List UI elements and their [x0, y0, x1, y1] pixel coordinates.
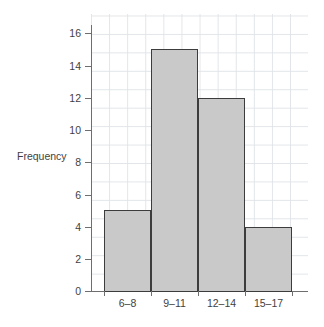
y-tick-label-4: 4	[60, 222, 81, 233]
x-tick-mark-1	[151, 291, 152, 296]
y-tick-mark-14	[85, 66, 91, 67]
histogram-bar	[104, 210, 151, 292]
y-tick-label-2: 2	[60, 254, 81, 265]
y-tick-label-14: 14	[60, 61, 81, 72]
y-tick-mark-4	[85, 227, 91, 228]
y-tick-label-10: 10	[60, 125, 81, 136]
y-tick-label-12: 12	[60, 93, 81, 104]
histogram-chart: Frequency 0 2 4 6 8 10 12 14 16 6–	[0, 0, 324, 327]
y-tick-label-8: 8	[60, 157, 81, 168]
histogram-bar	[151, 49, 198, 292]
y-tick-mark-8	[85, 162, 91, 163]
y-tick-label-14-wrap: 14	[60, 61, 81, 72]
x-axis-category-label: 12–14	[198, 297, 245, 309]
y-tick-label-16: 16	[60, 28, 81, 39]
x-axis-category-label: 6–8	[104, 297, 151, 309]
y-tick-label-10-wrap: 10	[60, 125, 81, 136]
y-axis-line	[91, 25, 92, 292]
x-tick-mark-2	[198, 291, 199, 296]
x-tick-mark-3	[245, 291, 246, 296]
y-tick-mark-12	[85, 98, 91, 99]
y-tick-mark-6	[85, 195, 91, 196]
x-axis-category-label: 15–17	[245, 297, 292, 309]
y-tick-mark-16	[85, 33, 91, 34]
y-tick-label-12-wrap: 12	[60, 93, 81, 104]
x-axis-category-label: 9–11	[151, 297, 198, 309]
y-tick-mark-2	[85, 259, 91, 260]
y-tick-label-6-wrap: 6	[60, 190, 81, 201]
x-tick-mark-0	[104, 291, 105, 296]
y-tick-label-0: 0	[60, 286, 81, 297]
x-tick-mark-4	[292, 291, 293, 296]
y-tick-label-4-wrap: 4	[60, 222, 81, 233]
y-tick-label-16-wrap: 16	[60, 28, 81, 39]
y-tick-label-2-wrap: 2	[60, 254, 81, 265]
y-tick-label-8-wrap: 8	[60, 157, 81, 168]
y-tick-label-6: 6	[60, 190, 81, 201]
histogram-bar	[245, 227, 292, 293]
y-tick-mark-10	[85, 130, 91, 131]
histogram-bar	[198, 98, 245, 293]
y-tick-mark-0	[85, 291, 91, 292]
y-tick-label-0-wrap: 0	[60, 286, 81, 297]
